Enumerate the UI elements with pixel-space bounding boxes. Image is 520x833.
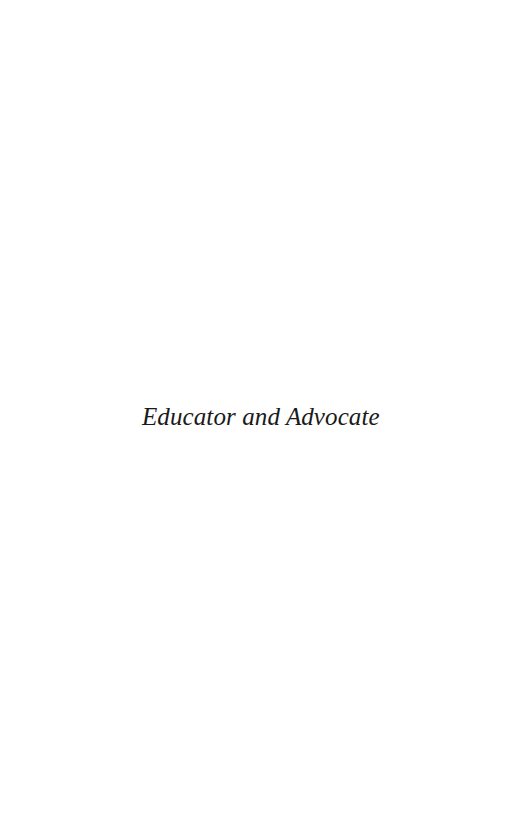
half-title-heading: Educator and Advocate [142,400,380,434]
book-page: Educator and Advocate [0,0,520,833]
